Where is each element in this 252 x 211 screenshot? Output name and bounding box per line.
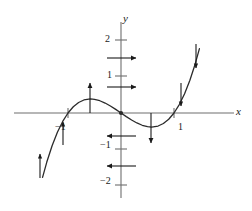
x-tick-label-1: 1 <box>178 122 183 132</box>
origin-dot <box>119 111 123 115</box>
y-tick-label-neg1: −1 <box>100 140 111 150</box>
x-axis-label: x <box>236 106 241 117</box>
graph-figure: y x 2 1 −1 −2 −1 1 <box>0 0 252 211</box>
x-tick-label-neg1: −1 <box>55 122 66 132</box>
y-tick-label-2: 2 <box>105 34 110 44</box>
y-tick-label-neg2: −2 <box>100 176 111 186</box>
plot-canvas <box>0 0 252 211</box>
axes-group <box>14 22 234 198</box>
y-axis-label: y <box>123 13 128 24</box>
y-tick-label-1: 1 <box>107 70 112 80</box>
